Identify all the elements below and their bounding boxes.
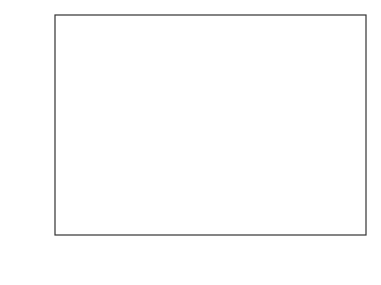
chart-canvas: [0, 0, 381, 285]
plot-frame: [55, 15, 366, 235]
